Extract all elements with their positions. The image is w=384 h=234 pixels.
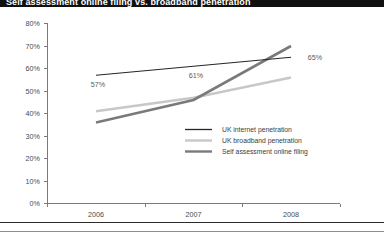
x-tick-label: 2006 [88,210,104,219]
series-line-uk-broadband-penetration [96,78,291,112]
page-title: Self assessment online filing vs. broadb… [6,0,251,7]
legend: UK internet penetration UK broadband pen… [185,126,308,156]
y-tick-label: 70% [26,42,41,51]
footer-divider-bottom [0,231,384,232]
legend-label-uk-internet-penetration: UK internet penetration [222,126,292,134]
y-tick-label: 80% [26,19,41,28]
legend-label-uk-broadband-penetration: UK broadband penetration [222,137,302,145]
chart-container: 0% 10% 20% 30% 40% 50% 60% 70% 80% 2006 … [0,7,384,220]
data-label-65: 65% [308,53,323,62]
data-label-57: 57% [91,80,106,89]
y-tick-label: 30% [26,132,41,141]
y-tick-label: 60% [26,64,41,73]
x-tick-label: 2007 [186,210,202,219]
legend-label-self-assessment-online-filing: Self assessment online filing [222,148,308,156]
x-tick-label: 2008 [283,210,299,219]
slide: Self assessment online filing vs. broadb… [0,0,384,234]
footer-divider-top [0,222,384,223]
title-band: Self assessment online filing vs. broadb… [0,0,384,7]
y-tick-label: 50% [26,87,41,96]
line-chart: 0% 10% 20% 30% 40% 50% 60% 70% 80% 2006 … [0,7,384,220]
x-axis-ticks [48,204,341,208]
y-tick-label: 20% [26,154,41,163]
y-tick-label: 10% [26,177,41,186]
y-axis-ticks [44,24,48,204]
y-tick-label: 0% [30,199,41,208]
data-label-61: 61% [189,71,204,80]
y-tick-label: 40% [26,109,41,118]
